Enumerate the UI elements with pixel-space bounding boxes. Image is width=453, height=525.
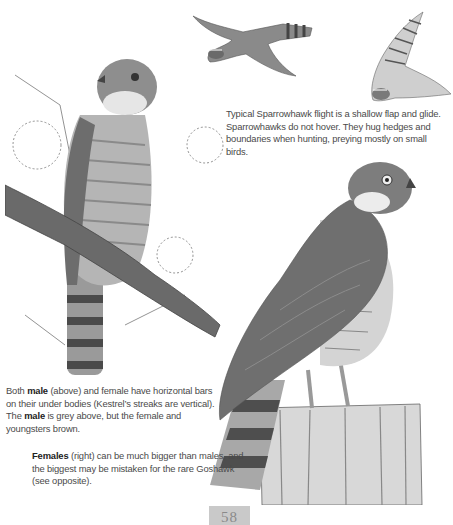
female-caption-bold: Females	[32, 450, 68, 461]
male-caption: Both male (above) and female have horizo…	[6, 385, 216, 435]
male-caption-bold: male	[24, 410, 45, 421]
male-caption-text: Both	[6, 385, 27, 396]
page-number: 58	[209, 506, 250, 525]
male-sparrowhawk-perched-illustration	[5, 45, 225, 380]
flying-sparrowhawk-underside-illustration	[325, 8, 453, 104]
flight-caption: Typical Sparrowhawk flight is a shallow …	[226, 108, 451, 158]
flight-caption-text: Typical Sparrowhawk flight is a shallow …	[226, 108, 441, 157]
female-caption: Females (right) can be much bigger than …	[32, 450, 252, 488]
male-caption-bold: male	[27, 385, 48, 396]
